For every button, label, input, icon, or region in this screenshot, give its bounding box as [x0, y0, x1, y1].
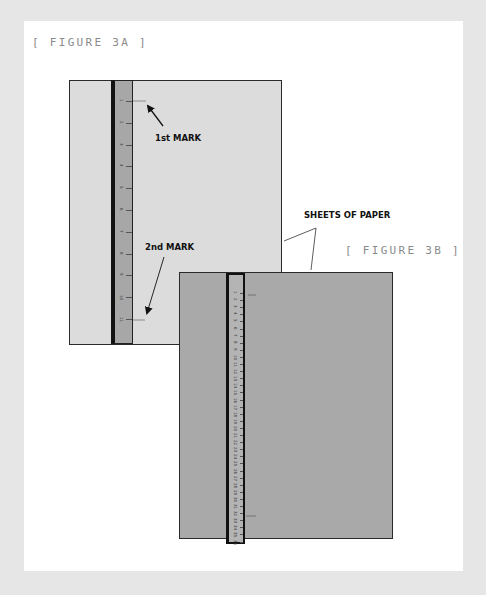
callout-line-sheet-a [284, 228, 316, 241]
callout-line-sheet-b [311, 228, 316, 270]
second-mark-arrow [147, 257, 164, 313]
first-mark-arrow [148, 106, 163, 126]
annotation-lines [0, 0, 486, 595]
